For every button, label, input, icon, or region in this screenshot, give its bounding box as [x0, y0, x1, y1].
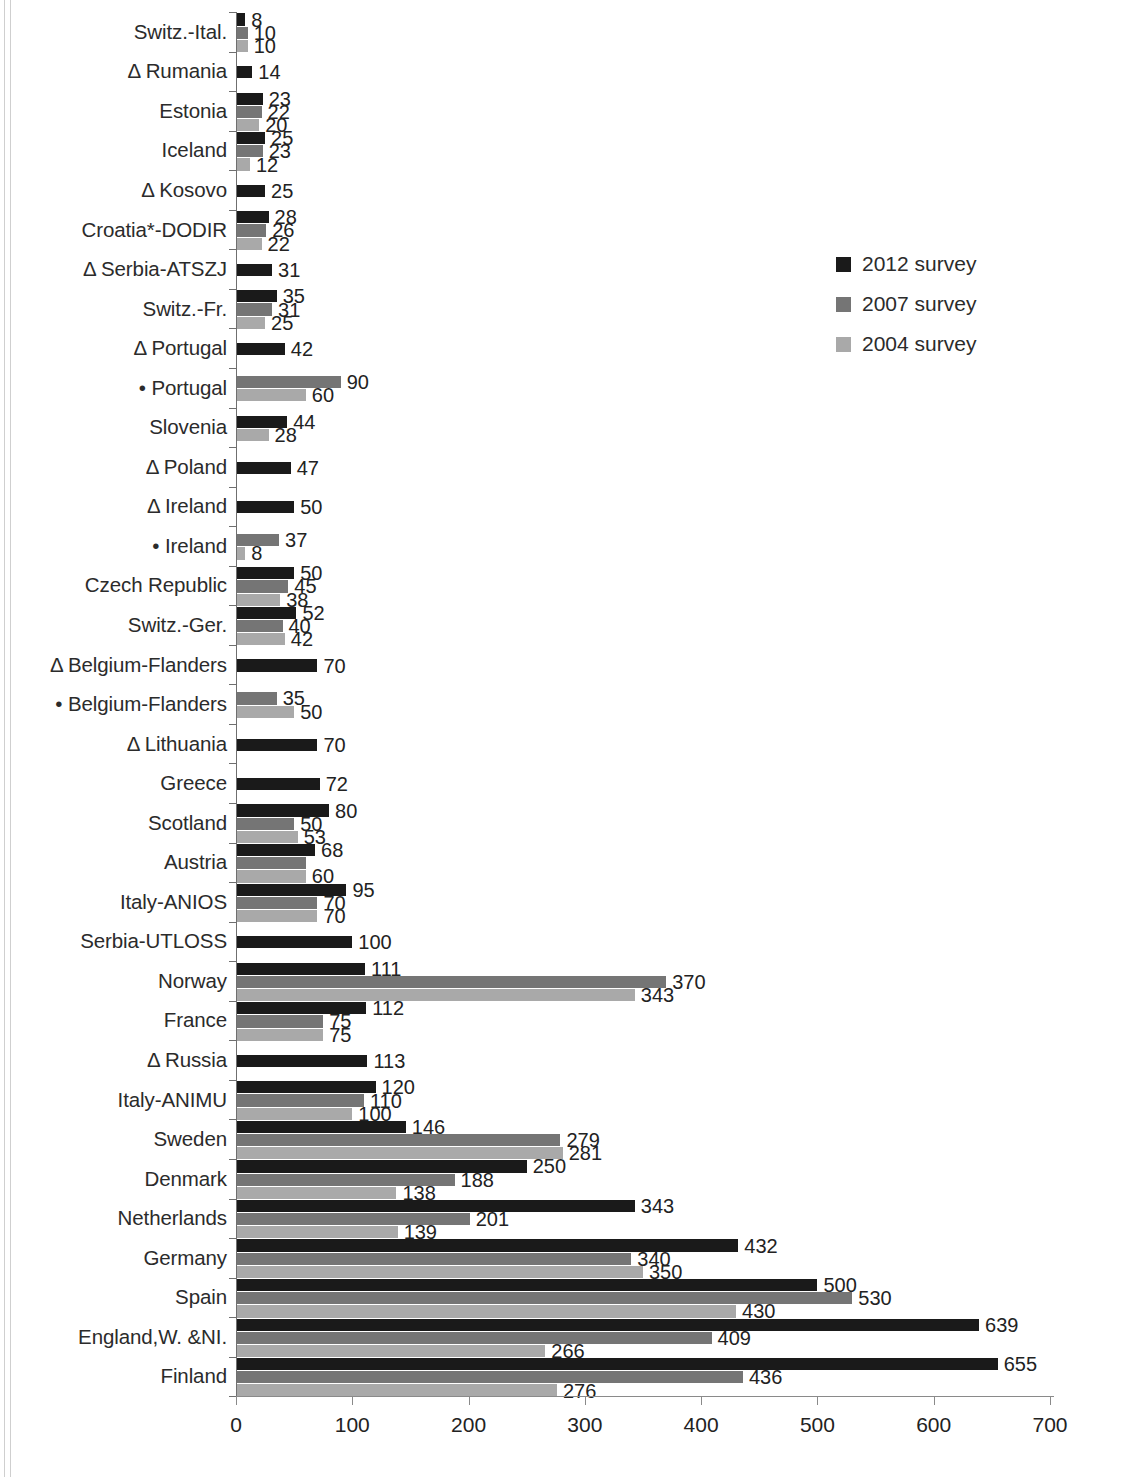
y-axis-tick — [229, 408, 236, 409]
chart-row: England,W. &NI.639409266 — [0, 1317, 1142, 1357]
chart-row: Δ Lithuania70 — [0, 724, 1142, 764]
x-axis-tick — [1050, 1397, 1051, 1405]
bar-line: 340 — [236, 1253, 1142, 1265]
x-axis-tick — [469, 1397, 470, 1405]
bar-line: 28 — [236, 211, 1142, 223]
bar-line: 60 — [236, 389, 1142, 401]
bar-value-label: 28 — [269, 423, 297, 446]
chart-row: Δ Kosovo25 — [0, 170, 1142, 210]
category-label: Δ Belgium-Flanders — [0, 645, 236, 685]
bar-line: 80 — [236, 804, 1142, 816]
category-label: Δ Serbia-ATSZJ — [0, 249, 236, 289]
bar-s2012 — [236, 936, 352, 948]
y-axis-tick — [229, 605, 236, 606]
row-bars: 81010 — [236, 12, 1142, 52]
category-label: Switz.-Ger. — [0, 605, 236, 645]
bar-s2007 — [236, 620, 283, 632]
bar-s2007 — [236, 1015, 323, 1027]
bar-line: 113 — [236, 1055, 1142, 1067]
bar-s2004 — [236, 238, 262, 250]
bar-s2004 — [236, 1187, 396, 1199]
category-label: Δ Rumania — [0, 52, 236, 92]
bar-line: 26 — [236, 224, 1142, 236]
legend-item[interactable]: 2004 survey — [836, 324, 1066, 364]
bar-s2012 — [236, 1055, 367, 1067]
y-axis-tick — [229, 368, 236, 369]
bar-s2007 — [236, 976, 666, 988]
category-label: Serbia-UTLOSS — [0, 922, 236, 962]
bar-s2004 — [236, 1345, 545, 1357]
chart-row: Switz.-Ital.81010 — [0, 12, 1142, 52]
category-label: England,W. &NI. — [0, 1317, 236, 1357]
x-axis-tick-label: 700 — [1032, 1413, 1067, 1437]
bar-s2012 — [236, 343, 285, 355]
bar-value-label: 47 — [291, 456, 319, 479]
bar-line: 38 — [236, 594, 1142, 606]
row-bars: 343201139 — [236, 1198, 1142, 1238]
category-label: Netherlands — [0, 1198, 236, 1238]
bar-s2012 — [236, 501, 294, 513]
bar-s2007 — [236, 106, 262, 118]
bar-line: 436 — [236, 1371, 1142, 1383]
bar-line: 432 — [236, 1239, 1142, 1251]
bar-line: 350 — [236, 1266, 1142, 1278]
category-label: Austria — [0, 842, 236, 882]
row-bars: 232220 — [236, 91, 1142, 131]
y-axis-line — [236, 12, 237, 1396]
x-axis-tick-label: 500 — [800, 1413, 835, 1437]
x-axis-tick — [701, 1397, 702, 1405]
chart-row: Netherlands343201139 — [0, 1198, 1142, 1238]
y-axis-tick — [229, 131, 236, 132]
bar-s2012 — [236, 778, 320, 790]
row-bars: 111370343 — [236, 961, 1142, 1001]
bar-s2012 — [236, 963, 365, 975]
bar-s2012 — [236, 264, 272, 276]
bar-s2004 — [236, 1108, 352, 1120]
y-axis-tick — [229, 52, 236, 53]
y-axis-tick — [229, 763, 236, 764]
row-bars: 6860 — [236, 842, 1142, 882]
bar-line: 50 — [236, 501, 1142, 513]
y-axis-tick — [229, 526, 236, 527]
bar-line: 72 — [236, 778, 1142, 790]
bar-value-label: 50 — [294, 496, 322, 519]
legend-item[interactable]: 2007 survey — [836, 284, 1066, 324]
bar-line: 20 — [236, 119, 1142, 131]
chart-row: Finland655436276 — [0, 1357, 1142, 1397]
chart-row: Δ Poland47 — [0, 447, 1142, 487]
chart-rows: Switz.-Ital.81010Δ Rumania14Estonia23222… — [0, 12, 1142, 1396]
row-bars: 70 — [236, 724, 1142, 764]
row-bars: 50 — [236, 487, 1142, 527]
row-bars: 805053 — [236, 803, 1142, 843]
bar-value-label: 72 — [320, 773, 348, 796]
row-bars: 146279281 — [236, 1119, 1142, 1159]
chart-row: Austria6860 — [0, 842, 1142, 882]
bar-value-label: 70 — [317, 733, 345, 756]
bar-line: 23 — [236, 145, 1142, 157]
legend-item[interactable]: 2012 survey — [836, 244, 1066, 284]
x-axis-tick — [934, 1397, 935, 1405]
y-axis-tick — [229, 922, 236, 923]
bar-s2012 — [236, 13, 245, 25]
bar-s2007 — [236, 1134, 560, 1146]
y-axis-tick — [229, 249, 236, 250]
bar-s2004 — [236, 1147, 563, 1159]
bar-s2012 — [236, 462, 291, 474]
y-axis-tick — [229, 289, 236, 290]
row-bars: 70 — [236, 645, 1142, 685]
category-label: Croatia*-DODIR — [0, 210, 236, 250]
bar-line: 44 — [236, 416, 1142, 428]
bar-line: 47 — [236, 462, 1142, 474]
bar-s2007 — [236, 1094, 364, 1106]
row-bars: 120110100 — [236, 1080, 1142, 1120]
category-label: • Belgium-Flanders — [0, 684, 236, 724]
row-bars: 524042 — [236, 605, 1142, 645]
x-axis-tick-label: 400 — [684, 1413, 719, 1437]
bar-s2004 — [236, 831, 298, 843]
legend-label: 2007 survey — [862, 292, 976, 316]
row-bars: 655436276 — [236, 1357, 1142, 1397]
bar-line: 35 — [236, 692, 1142, 704]
bar-s2012 — [236, 93, 263, 105]
bar-line: 112 — [236, 1002, 1142, 1014]
bar-s2004 — [236, 1266, 643, 1278]
